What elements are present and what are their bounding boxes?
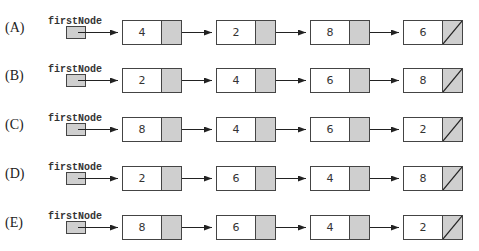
null-pointer-icon xyxy=(443,69,462,92)
list-node: 6 xyxy=(310,117,370,142)
list-node: 4 xyxy=(310,166,370,191)
next-pointer xyxy=(350,118,369,141)
next-pointer xyxy=(350,167,369,190)
next-pointer xyxy=(350,21,369,44)
node-data: 4 xyxy=(311,216,350,239)
list-node: 4 xyxy=(122,20,182,45)
node-data: 2 xyxy=(123,69,162,92)
option-row: (E)firstNode8642 xyxy=(0,215,479,251)
next-pointer xyxy=(162,167,181,190)
node-data: 2 xyxy=(404,216,443,239)
list-node: 2 xyxy=(122,68,182,93)
node-data: 2 xyxy=(123,167,162,190)
list-node: 2 xyxy=(122,166,182,191)
null-pointer-icon xyxy=(443,21,462,44)
list-node: 4 xyxy=(216,68,276,93)
node-data: 4 xyxy=(311,167,350,190)
next-pointer xyxy=(256,167,275,190)
node-data: 8 xyxy=(311,21,350,44)
list-node: 6 xyxy=(310,68,370,93)
null-pointer-icon xyxy=(443,118,462,141)
next-pointer xyxy=(162,118,181,141)
next-pointer xyxy=(256,118,275,141)
node-data: 8 xyxy=(404,69,443,92)
next-pointer xyxy=(162,21,181,44)
node-data: 6 xyxy=(311,118,350,141)
null-pointer-icon xyxy=(443,167,462,190)
option-row: (B)firstNode2468 xyxy=(0,68,479,108)
node-data: 6 xyxy=(217,216,256,239)
next-pointer xyxy=(256,216,275,239)
list-node: 2 xyxy=(403,117,463,142)
list-node: 8 xyxy=(403,166,463,191)
node-data: 4 xyxy=(123,21,162,44)
list-node: 2 xyxy=(403,215,463,240)
list-node: 8 xyxy=(310,20,370,45)
list-node: 2 xyxy=(216,20,276,45)
option-row: (C)firstNode8462 xyxy=(0,117,479,157)
node-data: 6 xyxy=(311,69,350,92)
next-pointer xyxy=(350,216,369,239)
option-row: (D)firstNode2648 xyxy=(0,166,479,206)
next-pointer xyxy=(350,69,369,92)
node-data: 4 xyxy=(217,118,256,141)
list-node: 8 xyxy=(403,68,463,93)
next-pointer xyxy=(256,21,275,44)
list-node: 8 xyxy=(122,215,182,240)
null-pointer-icon xyxy=(443,216,462,239)
option-row: (A)firstNode4286 xyxy=(0,20,479,60)
next-pointer xyxy=(162,216,181,239)
list-node: 6 xyxy=(216,215,276,240)
next-pointer xyxy=(162,69,181,92)
node-data: 6 xyxy=(404,21,443,44)
node-data: 2 xyxy=(217,21,256,44)
list-node: 6 xyxy=(216,166,276,191)
list-node: 4 xyxy=(310,215,370,240)
node-data: 8 xyxy=(404,167,443,190)
list-node: 8 xyxy=(122,117,182,142)
node-data: 8 xyxy=(123,216,162,239)
list-node: 6 xyxy=(403,20,463,45)
node-data: 6 xyxy=(217,167,256,190)
node-data: 8 xyxy=(123,118,162,141)
node-data: 2 xyxy=(404,118,443,141)
node-data: 4 xyxy=(217,69,256,92)
list-node: 4 xyxy=(216,117,276,142)
next-pointer xyxy=(256,69,275,92)
